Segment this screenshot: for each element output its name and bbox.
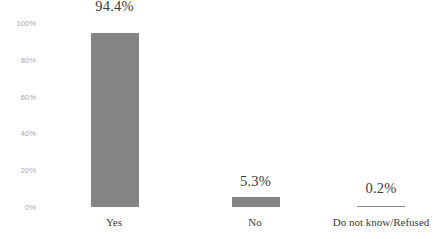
bar-value-do-not-know-refused: 0.2% [365, 180, 396, 197]
x-tick-label-do-not-know-refused: Do not know/Refused [333, 216, 430, 228]
plot-area: 94.4% 5.3% 0.2% [42, 23, 438, 207]
y-tick-label-20: 20% [21, 166, 36, 175]
y-tick-label-60: 60% [21, 92, 36, 101]
bar-group-do-not-know-refused: 0.2% [324, 23, 438, 207]
y-tick-label-100: 100% [16, 19, 36, 28]
bar-no[interactable] [232, 197, 280, 207]
bar-yes[interactable] [91, 33, 139, 207]
bar-group-yes: 94.4% [42, 23, 187, 207]
chart-title [0, 0, 438, 2]
y-tick-label-0: 0% [25, 203, 36, 212]
x-tick-label-no: No [248, 216, 261, 228]
bar-chart: 100% 80% 60% 40% 20% 0% 94.4% 5.3% 0.2% … [0, 0, 438, 239]
y-tick-label-40: 40% [21, 129, 36, 138]
x-tick-label-yes: Yes [106, 216, 122, 228]
bar-do-not-know-refused[interactable] [357, 206, 405, 208]
bar-value-yes: 94.4% [95, 0, 133, 15]
y-tick-label-80: 80% [21, 55, 36, 64]
y-axis: 100% 80% 60% 40% 20% 0% [0, 0, 42, 239]
bar-value-no: 5.3% [240, 173, 271, 190]
bar-group-no: 5.3% [187, 23, 324, 207]
x-axis: Yes No Do not know/Refused [42, 209, 438, 239]
